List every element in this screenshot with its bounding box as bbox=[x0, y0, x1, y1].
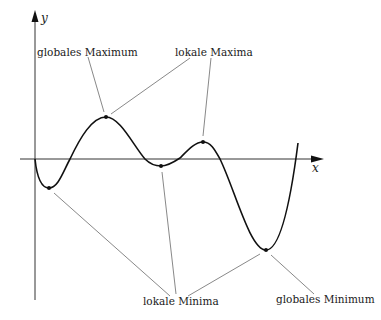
point-local-max bbox=[201, 140, 205, 144]
point-local-min-1 bbox=[47, 186, 51, 190]
label-global-min: globales Minimum bbox=[276, 293, 375, 305]
leader-local-maxima-2 bbox=[203, 58, 211, 136]
label-local-minima: lokale Minima bbox=[143, 295, 219, 307]
y-axis-arrow-icon bbox=[32, 10, 39, 22]
leader-local-maxima-1 bbox=[111, 58, 190, 114]
y-axis-label: y bbox=[40, 11, 48, 25]
leader-local-minima-3 bbox=[188, 254, 260, 296]
point-global-min bbox=[264, 248, 268, 252]
point-local-min-2 bbox=[159, 164, 163, 168]
extrema-diagram: y x globales Maximum lokale Maxima lokal… bbox=[0, 0, 381, 320]
label-local-maxima: lokale Maxima bbox=[175, 46, 253, 58]
function-curve bbox=[35, 117, 298, 250]
point-global-max bbox=[104, 115, 108, 119]
leader-global-min bbox=[271, 255, 314, 294]
leader-global-max bbox=[88, 57, 104, 112]
label-global-max: globales Maximum bbox=[37, 46, 138, 58]
leader-local-minima-1 bbox=[54, 193, 170, 296]
x-axis-label: x bbox=[312, 161, 319, 175]
leader-local-minima-2 bbox=[162, 172, 176, 294]
